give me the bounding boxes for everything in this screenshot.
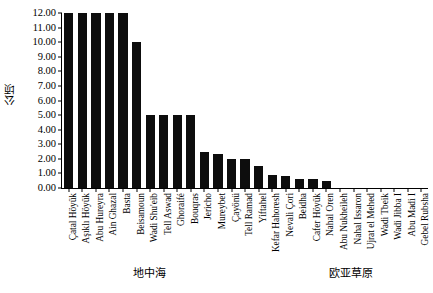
bar xyxy=(173,115,182,188)
y-axis: 12.0011.0010.009.008.007.006.005.004.003… xyxy=(22,8,62,190)
x-axis-tick-mark xyxy=(421,188,422,192)
bar-slot xyxy=(347,13,361,188)
x-axis-label-slot: Aşıklı Höyük xyxy=(76,193,90,255)
bar xyxy=(254,166,263,188)
x-axis-tick-mark xyxy=(231,188,232,192)
bar-slot xyxy=(360,13,374,188)
x-axis-label-slot: Tell Ramad xyxy=(238,193,252,255)
x-axis-tick-mark xyxy=(82,188,83,192)
x-axis-tick-mark xyxy=(177,188,178,192)
bar xyxy=(268,175,277,188)
x-axis-label-slot: Beidha xyxy=(293,193,307,255)
x-axis-tick-mark xyxy=(245,188,246,192)
bar-slot xyxy=(184,13,198,188)
y-axis-tick-label: 0.00 xyxy=(38,183,56,194)
y-axis-tick-label: 10.00 xyxy=(32,37,56,48)
group-label-mediterranean: 地中海 xyxy=(133,264,166,280)
x-axis-tick-mark xyxy=(258,188,259,192)
bar xyxy=(64,13,73,188)
x-axis-label-slot: Abu Madi I xyxy=(401,193,415,255)
bar-slot xyxy=(157,13,171,188)
plot-area xyxy=(62,13,428,188)
bar xyxy=(91,13,100,188)
x-axis-label-slot: Mureybet xyxy=(211,193,225,255)
x-axis-label-slot: Basta xyxy=(116,193,130,255)
x-axis-label-slot: Wadi Tbeik xyxy=(374,193,388,255)
x-axis-label-slot: Ghoraifé xyxy=(171,193,185,255)
x-axis-labels: Çatal HöyükAşıklı HöyükAbu HureyraAin Gh… xyxy=(62,193,428,255)
y-axis-tick-label: 12.00 xyxy=(32,8,56,19)
y-axis-tick-label: 7.00 xyxy=(38,81,56,92)
bar xyxy=(295,179,304,188)
x-axis-tick-mark xyxy=(109,188,110,192)
bar xyxy=(227,159,236,188)
x-axis-tick-mark xyxy=(136,188,137,192)
bar-slot xyxy=(388,13,402,188)
x-axis-tick-mark xyxy=(394,188,395,192)
group-label-eurasian-steppe: 欧亚草原 xyxy=(329,264,373,280)
bar-slot xyxy=(374,13,388,188)
bar-slot xyxy=(415,13,429,188)
x-axis-tick-label: Gebel Rubsha xyxy=(421,193,430,245)
y-axis-tick-label: 3.00 xyxy=(38,139,56,150)
y-axis-tick-label: 4.00 xyxy=(38,124,56,135)
x-axis-label-slot: Çatal Höyük xyxy=(62,193,76,255)
bar-slot xyxy=(306,13,320,188)
y-axis-tick-label: 6.00 xyxy=(38,95,56,106)
bar xyxy=(186,115,195,188)
x-axis-label-slot: Wadi Jibba I xyxy=(388,193,402,255)
x-axis-tick-mark xyxy=(204,188,205,192)
x-axis-tick-mark xyxy=(95,188,96,192)
bar-slot xyxy=(293,13,307,188)
bar xyxy=(105,13,114,188)
x-axis-label-slot: Ain Ghazal xyxy=(103,193,117,255)
x-axis-label-slot: Abu Nukheileh xyxy=(333,193,347,255)
bar xyxy=(118,13,127,188)
x-axis-label-slot: Jericho xyxy=(198,193,212,255)
y-axis-tick-label: 11.00 xyxy=(33,22,56,33)
bar xyxy=(146,115,155,188)
x-axis-label-slot: Nahal Oren xyxy=(320,193,334,255)
x-axis-tick-mark xyxy=(285,188,286,192)
bar xyxy=(240,159,249,188)
bar-slot xyxy=(198,13,212,188)
bar-chart: 公顷 12.0011.0010.009.008.007.006.005.004.… xyxy=(0,0,433,293)
x-axis-label-slot: Wadi Shu'eib xyxy=(143,193,157,255)
y-axis-tick-label: 9.00 xyxy=(38,52,56,63)
x-axis-tick-mark xyxy=(163,188,164,192)
bar xyxy=(308,179,317,188)
bar xyxy=(78,13,87,188)
x-axis-tick-mark xyxy=(150,188,151,192)
y-axis-title-label: 公顷 xyxy=(3,84,19,106)
bar-slot xyxy=(89,13,103,188)
bar-slot xyxy=(116,13,130,188)
x-axis-tick-mark xyxy=(68,188,69,192)
bar xyxy=(281,176,290,188)
x-axis-label-slot: Bouqras xyxy=(184,193,198,255)
x-axis-tick-mark xyxy=(367,188,368,192)
y-axis-tick-label: 2.00 xyxy=(38,154,56,165)
y-axis-tick-label: 5.00 xyxy=(38,110,56,121)
x-axis-tick-mark xyxy=(326,188,327,192)
bar-slot xyxy=(333,13,347,188)
bar-slot xyxy=(171,13,185,188)
x-axis-tick-mark xyxy=(299,188,300,192)
bar-slot xyxy=(76,13,90,188)
bar-slot xyxy=(211,13,225,188)
bar-slot xyxy=(265,13,279,188)
bar xyxy=(159,115,168,188)
x-axis-label-slot: Nahal Issaron xyxy=(347,193,361,255)
x-axis-tick-mark xyxy=(407,188,408,192)
x-axis-tick-mark xyxy=(190,188,191,192)
x-axis-tick-mark xyxy=(123,188,124,192)
bar-slot xyxy=(103,13,117,188)
x-axis-label-slot: Ujrat el Mehed xyxy=(360,193,374,255)
y-axis-tick-label: 8.00 xyxy=(38,66,56,77)
bar-slot xyxy=(238,13,252,188)
x-axis-label-slot: Kefar Hahoresh xyxy=(265,193,279,255)
bar-slot xyxy=(320,13,334,188)
bar xyxy=(200,152,209,188)
x-axis-label-slot: Cafer Höyük xyxy=(306,193,320,255)
bar-slot xyxy=(252,13,266,188)
y-axis-tick-label: 1.00 xyxy=(38,168,56,179)
